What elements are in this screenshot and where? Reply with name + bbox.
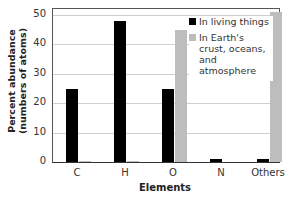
y-tick-label: 20	[20, 96, 46, 107]
bar-o-earth	[175, 30, 187, 162]
bar-n-living	[210, 159, 222, 162]
bar-c-earth	[79, 161, 91, 163]
y-tick-label: 0	[20, 155, 46, 166]
y-tick-label: 50	[20, 8, 46, 19]
legend-label-living: In living things	[199, 16, 269, 27]
legend-swatch-black	[189, 18, 196, 25]
y-tick-label: 30	[20, 67, 46, 78]
bar-c-living	[66, 89, 78, 163]
bar-others-living	[257, 159, 269, 162]
x-tick-label: H	[105, 167, 145, 178]
x-tick-label: N	[201, 167, 241, 178]
x-tick-label: O	[153, 167, 193, 178]
bar-h-living	[114, 21, 126, 162]
x-tick-label: C	[57, 167, 97, 178]
y-tick-label: 10	[20, 126, 46, 137]
legend-label-earth: In Earth's crust, oceans, and atmosphere	[199, 32, 273, 76]
legend: In living things In Earth's crust, ocean…	[189, 16, 273, 81]
y-tick-label: 40	[20, 37, 46, 48]
legend-item-earth: In Earth's crust, oceans, and atmosphere	[189, 32, 273, 76]
bar-o-living	[162, 89, 174, 163]
x-tick-label: Others	[248, 167, 286, 178]
legend-item-living: In living things	[189, 16, 273, 27]
x-axis-label: Elements	[115, 182, 215, 193]
bar-h-earth	[127, 161, 139, 163]
y-axis-label-line1: Percent abundance	[6, 26, 17, 136]
legend-swatch-gray	[189, 34, 196, 41]
